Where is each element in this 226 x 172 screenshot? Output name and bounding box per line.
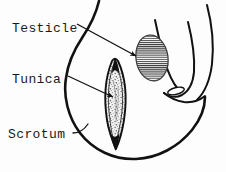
label-scrotum: Scrotum [8, 127, 65, 142]
hatched-testicle-oval [130, 30, 176, 88]
label-testicle: Testicle [12, 21, 78, 36]
tunica-vaginalis-lens [100, 55, 132, 155]
arrow-to-testicle [77, 24, 136, 56]
label-tunica: Tunica [12, 72, 61, 87]
diagram-canvas: Testicle Tunica Scrotum [0, 0, 226, 172]
leader-lines [68, 24, 136, 133]
scrotal-sac-outline [65, 1, 205, 159]
anatomy-diagram: Testicle Tunica Scrotum [0, 0, 226, 172]
